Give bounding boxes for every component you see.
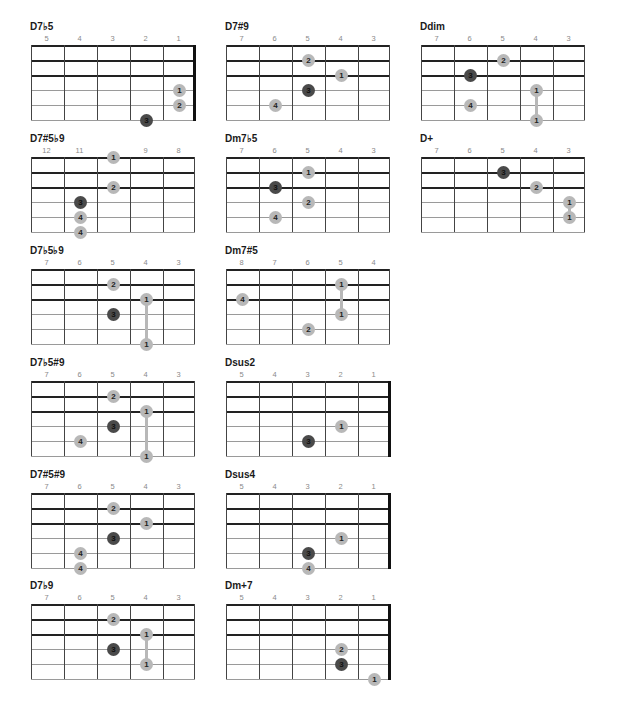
string-line [31,441,195,442]
fret-number-row: 76543 [420,34,585,44]
fret-line [584,45,585,120]
nut-line [388,604,391,680]
fret-number: 8 [162,146,195,155]
fret-number-row: 54321 [225,370,390,380]
root-finger-dot: 3 [302,435,315,448]
fret-number: 5 [225,482,258,491]
fret-number: 3 [96,34,129,43]
fret-line [97,269,98,344]
fretboard-grid: 12344 [31,157,195,232]
fret-number: 5 [291,34,324,43]
string-line [31,75,195,77]
fret-number: 6 [63,370,96,379]
fret-number: 5 [225,370,258,379]
fret-number: 3 [291,482,324,491]
fretboard-grid: 2131 [31,269,195,344]
fret-number: 3 [357,34,390,43]
fret-line [520,45,521,120]
fret-line [226,493,227,568]
fret-line [97,45,98,120]
string-line [226,45,390,47]
fretboard-grid: 1324 [226,157,390,232]
fret-number: 7 [30,482,63,491]
string-line [226,299,390,301]
root-finger-dot: 3 [107,308,120,321]
chord-diagram: Dsus454321134 [225,469,395,579]
string-line [226,75,390,77]
fret-line [292,604,293,679]
string-line [226,187,390,189]
fret-number-row: 76543 [30,258,195,268]
fret-number-row: 76543 [30,593,195,603]
fret-number: 6 [258,146,291,155]
string-line [226,120,390,121]
finger-dot: 1 [107,151,120,164]
string-line [31,568,195,569]
fret-line [325,604,326,679]
root-finger-dot: 3 [335,658,348,671]
fret-number: 4 [324,34,357,43]
fret-number: 1 [357,370,390,379]
fret-line [226,604,227,679]
fret-number: 6 [63,258,96,267]
fret-line [358,381,359,456]
fret-number: 5 [291,146,324,155]
finger-dot: 2 [302,323,315,336]
fret-number: 6 [453,34,486,43]
chord-name: Dm7♭5 [225,133,257,144]
root-finger-dot: 3 [107,532,120,545]
fret-line [31,604,32,679]
fret-line [325,493,326,568]
fret-number: 8 [225,258,258,267]
fret-number: 6 [453,146,486,155]
fret-line [130,45,131,120]
finger-dot: 4 [74,547,87,560]
root-finger-dot: 3 [302,547,315,560]
fretboard-grid: 21344 [31,493,195,568]
fret-number: 4 [519,146,552,155]
fret-line [97,381,98,456]
fretboard-grid: 2131 [31,604,195,679]
fret-number: 1 [357,482,390,491]
fret-number-row: 76543 [420,146,585,156]
string-line [226,538,390,539]
string-line [226,664,390,665]
fret-number: 12 [30,146,63,155]
fret-number: 3 [552,34,585,43]
fret-line [194,604,195,679]
nut-line [388,493,391,569]
fret-line [358,493,359,568]
fret-line [31,157,32,232]
fret-line [163,381,164,456]
string-line [421,232,585,233]
fret-line [292,269,293,344]
chord-diagram: Dm7#5876541412 [225,245,395,355]
fret-number: 7 [225,146,258,155]
string-line [31,411,195,413]
fret-number: 5 [96,258,129,267]
fret-line [130,269,131,344]
fret-number: 5 [30,34,63,43]
finger-dot: 1 [335,69,348,82]
finger-dot: 4 [269,99,282,112]
string-line [226,269,390,271]
fret-line [31,269,32,344]
fret-line [358,604,359,679]
finger-dot: 1 [140,405,153,418]
fret-line [325,269,326,344]
string-line [226,649,390,650]
fret-line [130,157,131,232]
finger-dot: 2 [530,181,543,194]
finger-dot: 1 [140,517,153,530]
fretboard-grid: 1412 [226,269,390,344]
finger-dot: 1 [335,532,348,545]
fret-number: 4 [129,258,162,267]
string-line [31,664,195,665]
string-line [421,75,585,77]
fret-line [130,604,131,679]
fret-line [97,157,98,232]
fret-number: 6 [63,482,96,491]
fret-line [64,45,65,120]
finger-dot: 2 [107,390,120,403]
chord-name: Dsus2 [225,357,255,368]
